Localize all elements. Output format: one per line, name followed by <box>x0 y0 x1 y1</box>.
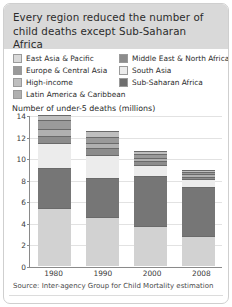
bar-segment <box>38 136 71 144</box>
legend-column-right: Middle East & North AfricaSouth AsiaSub-… <box>119 52 229 89</box>
legend-swatch-icon <box>13 54 22 63</box>
chart-card: Every region reduced the number of child… <box>3 3 229 304</box>
divider <box>9 295 223 296</box>
y-tick-mark <box>27 159 30 160</box>
stacked-bar-2008[interactable] <box>182 170 215 266</box>
bar-segment <box>38 208 71 266</box>
x-tick-label: 1990 <box>86 269 119 281</box>
title-band: Every region reduced the number of child… <box>4 4 228 49</box>
y-tick-label: 12 <box>17 133 26 142</box>
legend-swatch-icon <box>119 66 128 75</box>
x-axis-labels: 1980199020002008 <box>29 269 226 281</box>
legend-item-label: Latin America & Caribbean <box>26 90 126 99</box>
legend-item-east-asia-pacific[interactable]: East Asia & Pacific <box>13 52 118 64</box>
legend-item-high-income[interactable]: High-income <box>13 76 118 88</box>
source-note: Source: Inter-agency Group for Child Mor… <box>13 282 214 290</box>
y-tick-label: 14 <box>17 112 26 121</box>
chart-legend: East Asia & PacificEurope & Central Asia… <box>4 49 228 104</box>
legend-item-sub-saharan-africa[interactable]: Sub-Saharan Africa <box>119 76 229 88</box>
y-tick-mark <box>27 245 30 246</box>
y-tick-mark <box>27 138 30 139</box>
legend-swatch-icon <box>119 54 128 63</box>
x-tick-label: 2008 <box>185 269 218 281</box>
legend-swatch-icon <box>119 78 128 87</box>
bar-segment <box>38 120 71 129</box>
page-title: Every region reduced the number of child… <box>13 11 219 52</box>
legend-item-middle-east-north-africa[interactable]: Middle East & North Africa <box>119 52 229 64</box>
y-tick-label: 2 <box>21 241 26 250</box>
bar-segment <box>134 176 167 226</box>
bar-segment <box>134 165 167 177</box>
legend-item-label: Europe & Central Asia <box>26 66 107 75</box>
legend-item-label: Middle East & North Africa <box>132 54 229 63</box>
bar-segment <box>182 187 215 236</box>
legend-item-south-asia[interactable]: South Asia <box>119 64 229 76</box>
y-tick-label: 8 <box>21 176 26 185</box>
bar-segment <box>38 168 71 208</box>
legend-item-europe-central-asia[interactable]: Europe & Central Asia <box>13 64 118 76</box>
bar-segment <box>86 178 119 218</box>
legend-swatch-icon <box>13 66 22 75</box>
bar-segment <box>182 236 215 266</box>
y-axis-ticks: 02468101214 <box>12 116 28 268</box>
y-tick-mark <box>27 224 30 225</box>
bar-segment <box>86 155 119 178</box>
y-tick-label: 6 <box>21 198 26 207</box>
bar-segment <box>182 179 215 188</box>
bar-group <box>30 116 222 266</box>
legend-column-left: East Asia & PacificEurope & Central Asia… <box>13 52 118 101</box>
plot-wrapper: 02468101214 <box>12 116 224 268</box>
plot-canvas <box>29 116 222 268</box>
stacked-bar-1980[interactable] <box>38 115 71 266</box>
y-tick-label: 4 <box>21 219 26 228</box>
bar-segment <box>86 217 119 266</box>
legend-swatch-icon <box>13 78 22 87</box>
y-tick-label: 0 <box>21 263 26 272</box>
x-tick-label: 2000 <box>136 269 169 281</box>
y-tick-mark <box>27 181 30 182</box>
legend-item-label: Sub-Saharan Africa <box>132 78 203 87</box>
y-axis-title: Number of under-5 deaths (millions) <box>12 104 155 113</box>
y-tick-mark <box>27 116 30 117</box>
legend-item-label: South Asia <box>132 66 171 75</box>
legend-swatch-icon <box>13 90 22 99</box>
y-tick-label: 10 <box>17 155 26 164</box>
legend-item-label: East Asia & Pacific <box>26 54 94 63</box>
legend-item-label: High-income <box>26 78 73 87</box>
chart-area: Number of under-5 deaths (millions) 0246… <box>4 103 228 304</box>
stacked-bar-1990[interactable] <box>86 131 119 266</box>
x-tick-label: 1980 <box>37 269 70 281</box>
bar-segment <box>134 226 167 266</box>
y-tick-mark <box>27 267 30 268</box>
y-tick-mark <box>27 202 30 203</box>
bar-segment <box>38 143 71 168</box>
legend-item-latin-america-caribbean[interactable]: Latin America & Caribbean <box>13 89 118 101</box>
stacked-bar-2000[interactable] <box>134 151 167 266</box>
